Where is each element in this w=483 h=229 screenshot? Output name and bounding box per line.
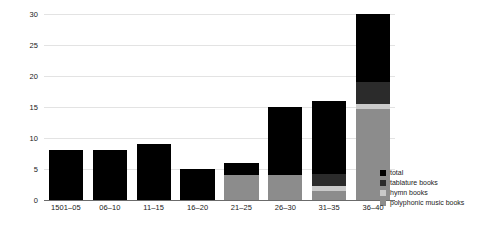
y-tick-label: 25 bbox=[4, 41, 38, 50]
chart-legend: totaltablature bookshymn bookspolyphonic… bbox=[380, 168, 464, 208]
legend-item[interactable]: tablature books bbox=[380, 178, 464, 188]
bar-segment[interactable] bbox=[268, 107, 302, 175]
bar-series-container bbox=[44, 14, 395, 200]
bar-segment[interactable] bbox=[224, 175, 258, 200]
x-tick-label: 11–15 bbox=[132, 203, 176, 212]
bar-group[interactable] bbox=[49, 150, 83, 200]
legend-label: tablature books bbox=[390, 179, 438, 186]
legend-label: hymn books bbox=[390, 189, 428, 196]
x-tick-label: 06–10 bbox=[88, 203, 132, 212]
legend-label: total bbox=[390, 169, 403, 176]
bar-group[interactable] bbox=[137, 144, 171, 200]
x-axis-line bbox=[44, 200, 395, 201]
bar-segment[interactable] bbox=[137, 144, 171, 200]
legend-swatch-icon bbox=[380, 170, 386, 176]
x-tick-label: 21–25 bbox=[220, 203, 264, 212]
y-tick-label: 5 bbox=[4, 165, 38, 174]
y-tick-label: 20 bbox=[4, 72, 38, 81]
bar-group[interactable] bbox=[180, 169, 214, 200]
legend-swatch-icon bbox=[380, 180, 386, 186]
bar-segment[interactable] bbox=[312, 191, 346, 200]
y-tick-label: 15 bbox=[4, 103, 38, 112]
bar-segment[interactable] bbox=[49, 150, 83, 200]
bar-group[interactable] bbox=[93, 150, 127, 200]
bar-segment[interactable] bbox=[356, 82, 390, 104]
x-tick-label: 1501–05 bbox=[44, 203, 88, 212]
bar-segment[interactable] bbox=[312, 174, 346, 186]
bar-segment[interactable] bbox=[180, 169, 214, 200]
legend-label: polyphonic music books bbox=[390, 199, 464, 206]
bar-segment[interactable] bbox=[356, 14, 390, 82]
bar-group[interactable] bbox=[312, 101, 346, 200]
legend-item[interactable]: hymn books bbox=[380, 188, 464, 198]
x-tick-label: 31–35 bbox=[307, 203, 351, 212]
x-tick-label: 36–40 bbox=[351, 203, 395, 212]
bar-segment[interactable] bbox=[224, 163, 258, 175]
bar-group[interactable] bbox=[268, 107, 302, 200]
bar-group[interactable] bbox=[224, 163, 258, 200]
x-tick-label: 16–20 bbox=[176, 203, 220, 212]
legend-swatch-icon bbox=[380, 190, 386, 196]
y-tick-label: 30 bbox=[4, 10, 38, 19]
plot-area bbox=[44, 14, 395, 200]
bar-segment[interactable] bbox=[312, 101, 346, 174]
y-tick-label: 0 bbox=[4, 196, 38, 205]
x-tick-label: 26–30 bbox=[263, 203, 307, 212]
legend-item[interactable]: total bbox=[380, 168, 464, 178]
bar-segment[interactable] bbox=[268, 175, 302, 200]
stacked-bar-chart: totaltablature bookshymn bookspolyphonic… bbox=[0, 0, 483, 229]
bar-segment[interactable] bbox=[93, 150, 127, 200]
y-tick-label: 10 bbox=[4, 134, 38, 143]
